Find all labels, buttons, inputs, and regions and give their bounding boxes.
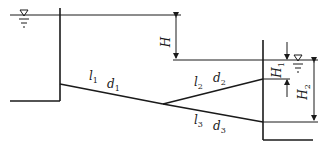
label-l1: l1 xyxy=(89,69,98,85)
right-water-level-icon xyxy=(293,55,303,72)
label-H2: H2 xyxy=(296,84,312,101)
label-d1: d1 xyxy=(107,77,120,93)
pipe-network-diagram: H l1 d1 l2 d2 l3 d3 H1 H2 xyxy=(0,0,323,147)
label-d3: d3 xyxy=(213,119,226,135)
pipes xyxy=(60,79,263,122)
head-H-dimension: H xyxy=(159,17,263,60)
label-l2: l2 xyxy=(194,75,203,91)
svg-text:H: H xyxy=(159,36,173,48)
left-water-level-icon xyxy=(19,10,29,27)
head-H2-dimension: H2 xyxy=(296,62,314,120)
head-H1-dimension: H1 xyxy=(270,42,287,97)
left-reservoir xyxy=(10,8,181,101)
label-H: H xyxy=(159,36,173,48)
label-l3: l3 xyxy=(194,113,203,129)
label-d2: d2 xyxy=(213,71,226,87)
label-H1: H1 xyxy=(270,62,286,79)
